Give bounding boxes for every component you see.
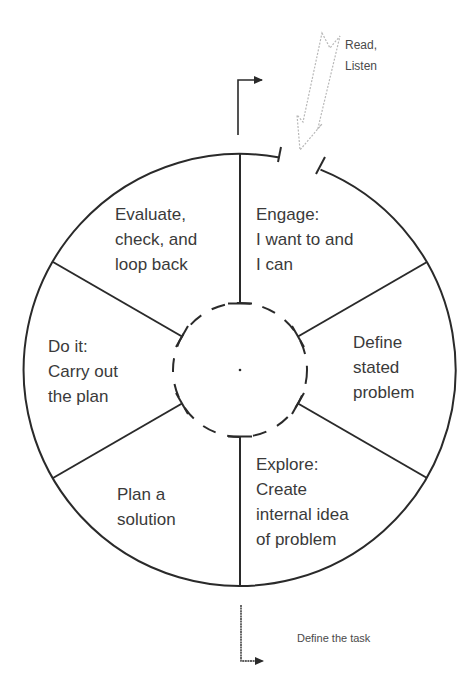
problem-solving-wheel-diagram: Read, Listen Define the task Evaluate, c…	[0, 0, 476, 679]
spoke-upper-right	[298, 262, 427, 337]
input-arrow-label: Read, Listen	[345, 38, 380, 73]
segment-plan-label: Plan a solution	[117, 485, 176, 529]
spoke-lower-left	[53, 404, 182, 479]
segment-explore-label: Explore: Create internal idea of problem	[256, 455, 353, 549]
exit-arrow-bottom-label: Define the task	[297, 632, 371, 644]
exit-arrow-top	[238, 80, 262, 135]
exit-arrow-bottom	[241, 605, 263, 661]
center-dot	[239, 369, 242, 372]
segment-engage-label: Engage: I want to and I can	[256, 205, 358, 274]
segment-evaluate-label: Evaluate, check, and loop back	[115, 205, 202, 274]
segment-do-it-label: Do it: Carry out the plan	[48, 337, 123, 406]
input-arrow-icon	[297, 33, 340, 150]
gap-tick-left	[278, 147, 281, 162]
segment-define-label: Define stated problem	[353, 333, 414, 402]
